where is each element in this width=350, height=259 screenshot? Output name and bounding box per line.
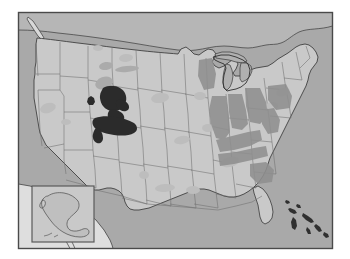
patch-nv-1: [61, 119, 71, 125]
alaska-inset: [32, 186, 94, 242]
us-map-figure: [0, 0, 350, 259]
patch-ks-1: [194, 92, 206, 100]
patch-ok-1: [186, 186, 200, 194]
map-canvas: [0, 0, 350, 259]
patch-mt-1: [93, 45, 103, 51]
patch-tx-2: [139, 171, 149, 179]
